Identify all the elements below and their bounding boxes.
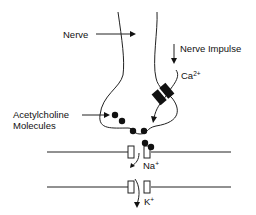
acetylcholine-molecule bbox=[141, 128, 147, 134]
potassium-label: K+ bbox=[144, 196, 154, 207]
potassium-arrowhead bbox=[134, 202, 140, 208]
sodium-label: Na+ bbox=[143, 160, 159, 171]
calcium-label: Ca2+ bbox=[181, 70, 201, 81]
potassium-efflux-arrow bbox=[135, 179, 139, 204]
calcium-arrowhead bbox=[151, 116, 157, 123]
acetylcholine-molecule bbox=[119, 118, 125, 124]
acetylcholine-molecule bbox=[142, 140, 148, 146]
calcium-channel bbox=[152, 83, 175, 105]
acetylcholine-label: AcetylcholineMolecules bbox=[13, 109, 69, 131]
nerve-impulse-label: Nerve Impulse bbox=[180, 43, 241, 54]
acetylcholine-molecule bbox=[112, 112, 118, 118]
nerve-arrowhead bbox=[130, 31, 136, 37]
acetylcholine-arrowhead bbox=[104, 112, 110, 118]
acetylcholine-molecule bbox=[130, 128, 136, 134]
nerve-impulse-arrowhead bbox=[171, 58, 177, 64]
nerve-label: Nerve bbox=[63, 29, 88, 40]
sodium-channel-left bbox=[128, 146, 134, 158]
synapse-diagram bbox=[0, 0, 256, 215]
potassium-channel-right bbox=[144, 181, 150, 193]
acetylcholine-molecule bbox=[148, 144, 154, 150]
nerve-terminal-outline bbox=[100, 12, 178, 134]
potassium-channel-left bbox=[128, 181, 134, 193]
